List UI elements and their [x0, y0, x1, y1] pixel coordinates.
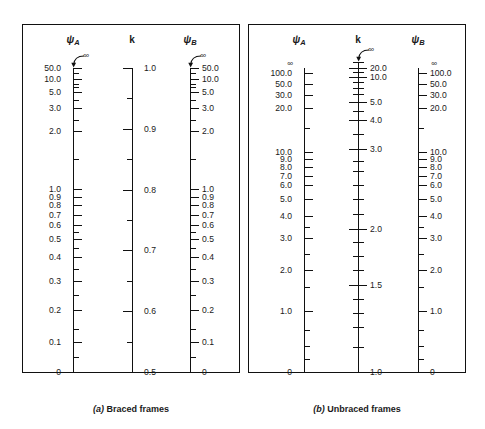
axis-tick-label: 0.4	[49, 253, 61, 262]
axis-tick	[304, 73, 313, 74]
axis-tick	[349, 77, 358, 78]
axis-tick	[190, 357, 196, 358]
axis-tick-label: 0.3	[202, 277, 214, 286]
axis-tick	[358, 62, 364, 63]
axis-tick-label: 0	[56, 368, 61, 377]
axis-tick	[73, 329, 79, 330]
axis-tick	[304, 330, 310, 331]
axis-tick	[349, 372, 358, 373]
axis-tick	[190, 295, 196, 296]
axis-tick	[190, 197, 199, 198]
axis-tick-label: 20.0	[370, 63, 387, 72]
panel-caption-braced: (a) Braced frames	[93, 404, 169, 414]
psi-subscript: B	[191, 38, 196, 47]
axis-tick	[190, 159, 196, 160]
axis-header-text: k	[355, 34, 361, 45]
axis-line-k-panel-braced	[132, 68, 133, 372]
axis-tick	[73, 159, 79, 160]
axis-tick-label: 0	[287, 368, 292, 377]
axis-tick-label: 1.0	[280, 307, 292, 316]
axis-tick-label: 0.7	[49, 211, 61, 220]
axis-tick	[304, 372, 313, 373]
axis-tick-label: 0.5	[144, 368, 156, 377]
axis-tick-label: 0.7	[144, 246, 156, 255]
axis-tick	[418, 346, 424, 347]
axis-tick-label: 5.0	[202, 87, 214, 96]
axis-tick	[190, 131, 199, 132]
axis-line-psi_B-panel-unbraced	[418, 68, 419, 372]
axis-tick-label: 100.0	[270, 69, 292, 78]
axis-tick	[418, 330, 424, 331]
psi-glyph: ψ	[292, 34, 300, 45]
axis-tick-label: 4.0	[430, 211, 442, 220]
axis-tick	[418, 108, 427, 109]
axis-tick-label: 4.0	[370, 116, 382, 125]
axis-tick	[304, 95, 313, 96]
axis-tick	[349, 229, 358, 230]
axis-tick	[190, 87, 196, 88]
axis-tick	[73, 269, 79, 270]
axis-tick	[358, 199, 364, 200]
axis-line-psi_A-panel-unbraced	[304, 68, 305, 372]
axis-tick	[190, 310, 199, 311]
axis-tick	[418, 128, 424, 129]
axis-tick	[358, 120, 367, 121]
axis-tick	[190, 79, 199, 80]
axis-tick-label: 1.0	[370, 368, 382, 377]
axis-tick-label: 3.0	[430, 234, 442, 243]
axis-tick	[349, 149, 358, 150]
axis-tick	[190, 120, 196, 121]
axis-tick-label: 0.2	[202, 306, 214, 315]
axis-header-k-panel-unbraced: k	[355, 34, 361, 45]
axis-tick	[358, 347, 364, 348]
axis-tick	[418, 95, 427, 96]
axis-tick	[304, 254, 310, 255]
axis-tick-label: 6.0	[280, 181, 292, 190]
axis-tick	[358, 134, 364, 135]
axis-tick	[304, 167, 313, 168]
axis-tick	[190, 73, 196, 74]
axis-tick-label: 1.0	[430, 307, 442, 316]
axis-tick	[127, 98, 133, 99]
axis-header-k-panel-braced: k	[129, 34, 135, 45]
axis-tick	[418, 311, 427, 312]
axis-tick	[304, 359, 310, 360]
axis-tick	[418, 270, 427, 271]
axis-tick-label: 2.0	[370, 225, 382, 234]
axis-tick	[73, 357, 79, 358]
axis-tick	[73, 310, 82, 311]
axis-tick	[418, 287, 424, 288]
axis-line-psi_B-panel-braced	[190, 68, 191, 372]
axis-tick	[304, 199, 313, 200]
axis-tick	[418, 359, 424, 360]
axis-tick	[358, 82, 364, 83]
axis-tick	[358, 161, 364, 162]
axis-tick	[123, 129, 132, 130]
axis-tick	[73, 100, 79, 101]
axis-tick	[418, 159, 427, 160]
axis-tick	[418, 372, 427, 373]
axis-tick	[73, 120, 79, 121]
axis-tick	[349, 102, 358, 103]
axis-tick-label: 0.6	[49, 221, 61, 230]
axis-tick	[190, 257, 199, 258]
axis-tick	[358, 214, 364, 215]
axis-tick	[418, 167, 427, 168]
psi-glyph: ψ	[183, 34, 191, 45]
axis-tick	[304, 152, 313, 153]
axis-tick	[190, 269, 196, 270]
axis-tick	[304, 216, 313, 217]
axis-tick	[418, 176, 427, 177]
axis-tick-label: 50.0	[430, 80, 447, 89]
psi-subscript: A	[74, 38, 79, 47]
axis-tick-label: 50.0	[275, 80, 292, 89]
axis-tick-label: 100.0	[430, 69, 452, 78]
axis-tick	[73, 79, 82, 80]
axis-tick	[73, 108, 82, 109]
axis-tick-label: 0.8	[144, 185, 156, 194]
axis-tick	[358, 242, 364, 243]
axis-tick-label: 5.0	[280, 194, 292, 203]
axis-tick-label: 30.0	[430, 91, 447, 100]
psi-glyph: ψ	[411, 34, 419, 45]
axis-tick-label: 20.0	[430, 104, 447, 113]
